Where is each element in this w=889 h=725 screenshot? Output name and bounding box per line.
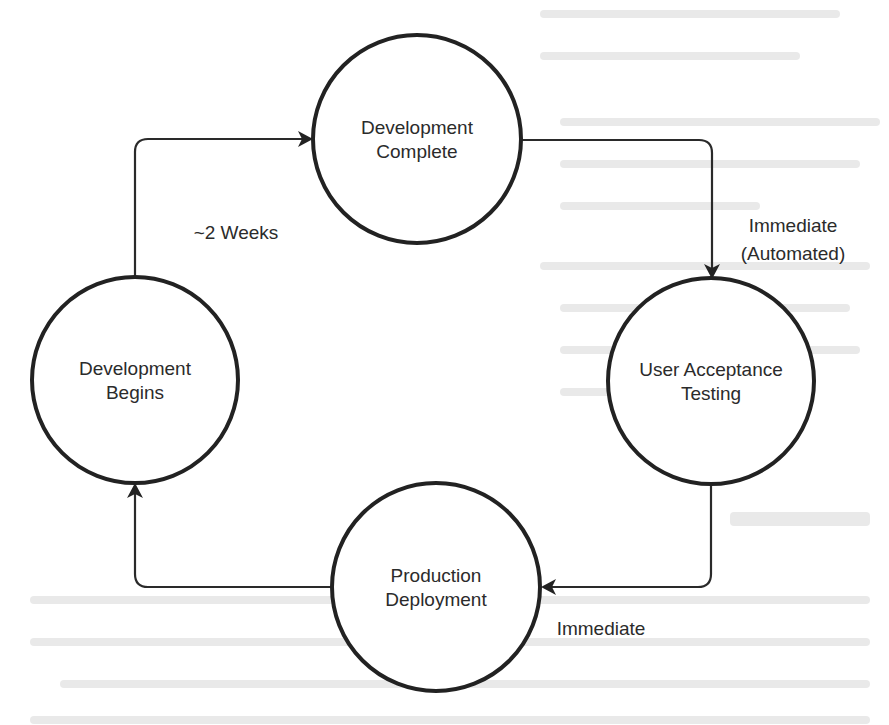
node-production-deployment: Production Deployment — [332, 483, 540, 691]
node-label-line1: Development — [79, 358, 192, 379]
edge-label-immediate-line1: Immediate — [749, 215, 838, 236]
node-label-line1: Development — [361, 117, 474, 138]
edge-uat-to-prod-deploy — [541, 484, 711, 595]
edge-label-immediate: Immediate — [557, 618, 646, 639]
edge-prod-deploy-to-dev-begins — [127, 483, 332, 587]
node-label-line1: Production — [391, 565, 482, 586]
node-development-complete: Development Complete — [313, 35, 521, 243]
cycle-diagram: Development Complete User Acceptance Tes… — [0, 0, 889, 725]
node-development-begins: Development Begins — [32, 277, 238, 483]
edge-label-two-weeks: ~2 Weeks — [194, 222, 279, 243]
node-label-line2: Deployment — [385, 589, 487, 610]
edge-label-automated-line2: (Automated) — [741, 243, 846, 264]
node-label-line2: Complete — [376, 141, 457, 162]
node-user-acceptance-testing: User Acceptance Testing — [608, 278, 814, 484]
node-label-line1: User Acceptance — [639, 359, 783, 380]
edge-dev-begins-to-dev-complete — [135, 131, 313, 277]
node-label-line2: Begins — [106, 382, 164, 403]
node-label-line2: Testing — [681, 383, 741, 404]
